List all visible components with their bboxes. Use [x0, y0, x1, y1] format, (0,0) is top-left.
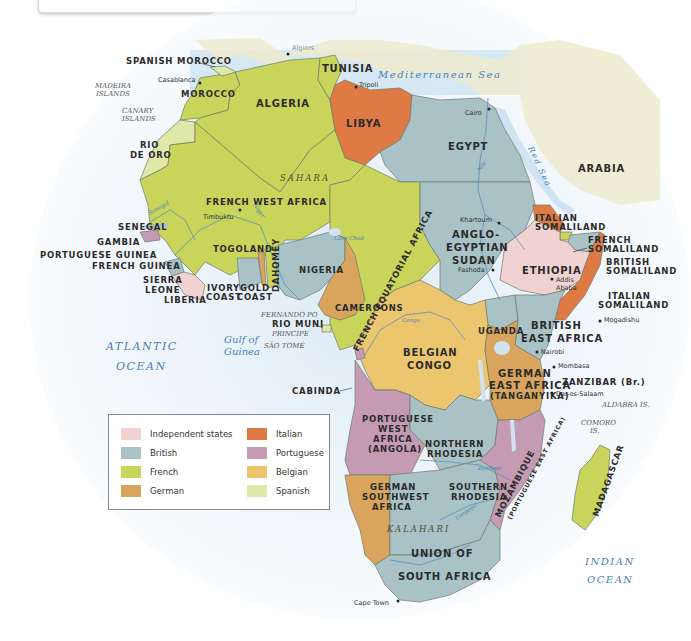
label-anglo-egyptian-sudan-2: EGYPTIAN — [446, 242, 508, 253]
label-madeira-2: ISLANDS — [95, 90, 130, 98]
label-british-somaliland-2: SOMALILAND — [606, 266, 677, 276]
label-comoro: COMORO — [581, 419, 616, 427]
label-uganda: UGANDA — [478, 326, 524, 336]
label-portuguese-west-africa-4: (ANGOLA) — [368, 444, 422, 454]
legend-swatch — [247, 428, 267, 440]
label-libya: LIBYA — [346, 118, 381, 129]
label-french-somaliland-2: SOMALILAND — [588, 244, 659, 254]
legend-label: Portuguese — [276, 448, 324, 458]
legend-label: German — [150, 486, 184, 496]
legend-swatch — [121, 428, 141, 440]
legend-label: British — [150, 448, 177, 458]
label-italian-somaliland-n-2: SOMALILAND — [535, 222, 606, 232]
legend-swatch — [121, 447, 141, 459]
label-belgian-congo: BELGIAN — [403, 347, 457, 358]
city-mombasa: Mombasa — [558, 362, 589, 370]
label-spanish-morocco: SPANISH MOROCCO — [126, 56, 232, 66]
label-belgian-congo-2: CONGO — [407, 360, 452, 371]
map-legend: Independent states British French German… — [108, 414, 330, 510]
label-mediterranean-sea: Mediterranean Sea — [377, 69, 501, 80]
label-portuguese-guinea: PORTUGUESE GUINEA — [40, 250, 157, 260]
label-morocco: MOROCCO — [181, 89, 236, 99]
city-algiers: Algiers — [292, 44, 315, 52]
label-congo: Congo — [402, 317, 421, 324]
label-zambezi: Zambezi — [477, 465, 502, 471]
city-cairo: Cairo — [465, 109, 482, 117]
legend-label: Independent states — [150, 429, 233, 439]
label-southern-rhodesia-2: RHODESIA — [451, 492, 507, 502]
label-german-southwest-africa-2: SOUTHWEST — [362, 492, 429, 502]
label-northern-rhodesia: NORTHERN — [425, 439, 484, 449]
label-portuguese-west-africa: PORTUGUESE — [362, 414, 434, 424]
label-gambia: GAMBIA — [97, 237, 140, 247]
label-arabia: ARABIA — [578, 163, 625, 174]
label-sierra-leone-2: LEONE — [145, 285, 180, 295]
city-cape-town: Cape Town — [354, 599, 389, 607]
label-sahara: SAHARA — [280, 173, 330, 183]
label-cabinda: CABINDA — [292, 386, 341, 396]
legend-label: Belgian — [276, 467, 308, 477]
label-atlantic-2: OCEAN — [116, 360, 167, 373]
label-lake-chad: Lake Chad — [333, 235, 364, 241]
label-indian-ocean-2: OCEAN — [587, 574, 634, 585]
city-fashoda: Fashoda — [458, 266, 485, 274]
lake-victoria — [494, 341, 510, 355]
label-german-east-africa: GERMAN — [498, 368, 552, 379]
city-addis-ababa-2: Ababa — [556, 284, 577, 292]
label-northern-rhodesia-2: RHODESIA — [427, 449, 483, 459]
label-fernando-po: FERNANDO PO — [260, 311, 318, 319]
label-tunisia: TUNISIA — [322, 63, 373, 74]
label-portuguese-west-africa-3: AFRICA — [373, 434, 413, 444]
city-nairobi: Nairobi — [541, 348, 564, 356]
label-principe: PRINCIPE — [271, 330, 309, 338]
label-french-west-africa: FRENCH WEST AFRICA — [206, 197, 327, 207]
legend-swatch — [247, 466, 267, 478]
legend-item-italian: Italian — [247, 427, 302, 441]
label-egypt: EGYPT — [448, 141, 488, 152]
legend-label: French — [150, 467, 178, 477]
label-british-east-africa: BRITISH — [531, 320, 582, 331]
legend-swatch — [121, 485, 141, 497]
africa-map: SPANISH MOROCCO MOROCCO ALGERIA TUNISIA … — [0, 0, 691, 641]
label-sierra-leone: SIERRA — [143, 275, 183, 285]
legend-item-british: British — [121, 446, 177, 460]
legend-item-spanish: Spanish — [247, 484, 310, 498]
legend-swatch — [247, 485, 267, 497]
city-dar-es-salaam: Dar-es-Salaam — [556, 390, 604, 398]
label-gold-coast-2: COAST — [237, 292, 273, 302]
city-tripoli: Tripoli — [358, 81, 378, 89]
label-kalahari: KALAHARI — [386, 524, 450, 534]
label-southern-rhodesia: SOUTHERN — [449, 482, 508, 492]
label-gulf-of-guinea: Gulf of — [224, 334, 261, 345]
label-portuguese-west-africa-2: WEST — [378, 424, 408, 434]
label-atlantic: ATLANTIC — [105, 340, 178, 353]
label-liberia: LIBERIA — [164, 295, 207, 305]
city-casablanca: Casablanca — [158, 76, 195, 84]
city-addis-ababa: Addis — [556, 276, 574, 284]
label-anglo-egyptian-sudan-3: SUDAN — [452, 255, 496, 266]
label-italian-somaliland-s-2: SOMALILAND — [598, 300, 669, 310]
label-german-southwest-africa: GERMAN — [370, 482, 416, 492]
city-mogadishu: Mogadishu — [604, 316, 639, 324]
legend-swatch — [247, 447, 267, 459]
city-khartoum: Khartoum — [460, 216, 492, 224]
label-union-of-south-africa-2: SOUTH AFRICA — [398, 571, 491, 582]
label-cameroons: CAMEROONS — [335, 303, 404, 313]
label-madeira: MADEIRA — [94, 82, 131, 90]
label-rio-de-oro-2: DE ORO — [130, 150, 172, 160]
label-rio-muni: RIO MUNI — [272, 319, 324, 329]
label-anglo-egyptian-sudan: ANGLO- — [452, 229, 500, 240]
legend-label: Spanish — [276, 486, 310, 496]
label-british-east-africa-2: EAST AFRICA — [521, 333, 603, 344]
label-dahomey: DAHOMEY — [271, 238, 281, 292]
legend-label: Italian — [276, 429, 302, 439]
label-gulf-of-guinea-2: Guinea — [224, 346, 260, 357]
label-nigeria: NIGERIA — [299, 265, 344, 275]
legend-item-german: German — [121, 484, 184, 498]
legend-item-portuguese: Portuguese — [247, 446, 324, 460]
legend-item-belgian: Belgian — [247, 465, 308, 479]
label-aldabra: ALDABRA IS. — [601, 401, 650, 409]
label-comoro-2: IS. — [589, 427, 600, 435]
label-senegal: SENEGAL — [118, 222, 167, 232]
label-indian-ocean: INDIAN — [584, 556, 635, 567]
